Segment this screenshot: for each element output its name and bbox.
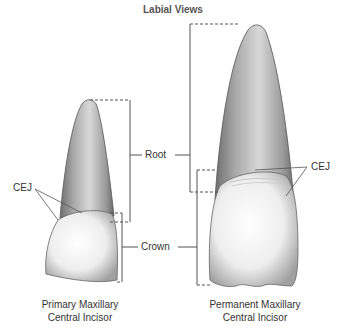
primary-tooth xyxy=(46,100,118,282)
permanent-crown xyxy=(209,172,298,287)
permanent-caption-line1: Permanent Maxillary xyxy=(200,298,310,311)
primary-caption-line1: Primary Maxillary xyxy=(30,298,130,311)
primary-crown xyxy=(46,211,118,282)
crown-label: Crown xyxy=(141,241,170,252)
primary-root xyxy=(60,100,114,218)
cej-left-label: CEJ xyxy=(13,182,32,193)
primary-caption-line2: Central Incisor xyxy=(30,311,130,324)
permanent-caption: Permanent Maxillary Central Incisor xyxy=(200,298,310,324)
primary-caption: Primary Maxillary Central Incisor xyxy=(30,298,130,324)
tooth-diagram xyxy=(0,0,345,330)
cej-right-label: CEJ xyxy=(311,161,330,172)
permanent-tooth xyxy=(209,25,298,287)
root-label: Root xyxy=(145,149,166,160)
permanent-caption-line2: Central Incisor xyxy=(200,311,310,324)
diagram-title: Labial Views xyxy=(143,4,203,15)
